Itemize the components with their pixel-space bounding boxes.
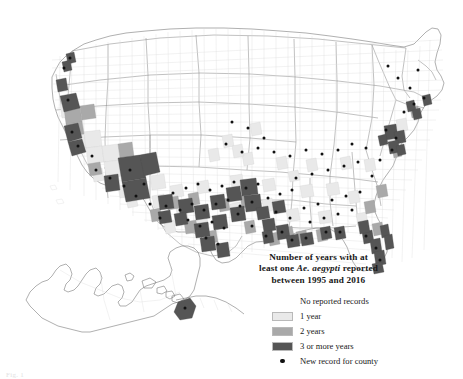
figure-caption: Fig. 1 bbox=[6, 371, 24, 379]
legend-swatch-2-years bbox=[272, 327, 293, 336]
legend-dot-cell bbox=[272, 359, 293, 363]
legend-title-line-2-after: reported bbox=[340, 263, 378, 273]
legend-swatch-no-records bbox=[272, 297, 293, 306]
legend-label-2-years: 2 years bbox=[300, 326, 325, 336]
legend-swatch-1-year bbox=[272, 312, 293, 321]
legend-item-3-or-more-years: 3 or more years bbox=[272, 339, 426, 353]
new-record-dot-icon bbox=[280, 359, 284, 363]
legend-item-no-records: No reported records bbox=[272, 294, 426, 308]
legend-item-2-years: 2 years bbox=[272, 324, 426, 338]
legend-title-species: Ae. aegypti bbox=[297, 263, 341, 273]
legend-label-new-record: New record for county bbox=[300, 356, 378, 366]
legend-label-3-or-more-years: 3 or more years bbox=[300, 341, 354, 351]
legend-item-1-year: 1 year bbox=[272, 309, 426, 323]
legend-label-1-year: 1 year bbox=[300, 311, 321, 321]
legend-item-new-record: New record for county bbox=[272, 354, 426, 368]
legend-items: No reported records 1 year 2 years 3 or … bbox=[272, 294, 426, 368]
legend-title-line-3: between 1995 and 2016 bbox=[272, 275, 366, 285]
legend-title: Number of years with at least one Ae. ae… bbox=[236, 252, 401, 286]
legend-title-line-1: Number of years with at bbox=[269, 252, 368, 262]
legend-label-no-records: No reported records bbox=[300, 296, 369, 306]
legend-swatch-3-or-more-years bbox=[272, 342, 293, 351]
map-legend: Number of years with at least one Ae. ae… bbox=[236, 252, 426, 369]
legend-title-line-2-before: least one bbox=[259, 263, 297, 273]
